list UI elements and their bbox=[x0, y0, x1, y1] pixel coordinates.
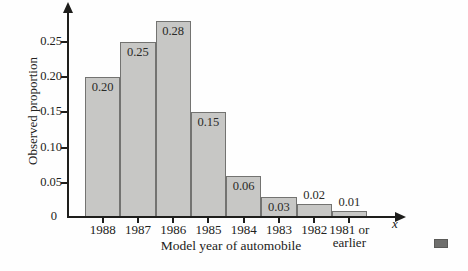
y-tick-label: 0.15 bbox=[26, 104, 62, 119]
bar-value-label: 0.20 bbox=[83, 80, 123, 94]
bar-value-label: 0.25 bbox=[118, 45, 158, 59]
bar-value-label: 0.06 bbox=[224, 179, 264, 193]
y-axis-arrow-icon bbox=[63, 2, 73, 13]
y-tick-label: 0.25 bbox=[26, 34, 62, 49]
bar-value-label: 0.03 bbox=[259, 200, 299, 214]
x-axis-title: Model year of automobile bbox=[131, 239, 331, 253]
bar-value-label: 0.01 bbox=[329, 195, 369, 209]
y-tick-label: 0.10 bbox=[26, 140, 62, 155]
end-of-example-marker bbox=[434, 239, 448, 248]
histogram-bar bbox=[156, 21, 191, 218]
histogram-figure: Observed proportion 00.050.100.150.200.2… bbox=[0, 0, 468, 271]
y-tick-label: 0.05 bbox=[26, 175, 62, 190]
y-axis-line bbox=[67, 10, 69, 218]
x-axis-line bbox=[67, 216, 397, 218]
histogram-bar bbox=[120, 42, 155, 218]
bar-value-label: 0.28 bbox=[153, 24, 193, 38]
histogram-bar bbox=[85, 77, 120, 218]
bar-value-label: 0.15 bbox=[188, 115, 228, 129]
y-tick-label: 0 bbox=[21, 209, 57, 224]
x-axis-variable-label: x bbox=[392, 216, 408, 232]
bar-value-label: 0.02 bbox=[294, 188, 334, 202]
y-tick-label: 0.20 bbox=[26, 69, 62, 84]
